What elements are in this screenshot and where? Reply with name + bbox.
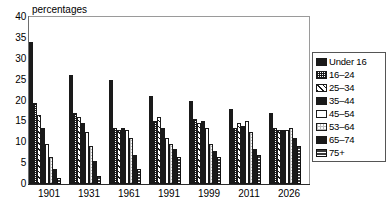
legend-item-label: 53–64 xyxy=(329,122,354,132)
legend-swatch-icon xyxy=(316,71,327,79)
chart-axis-title: percentages xyxy=(32,4,87,15)
x-axis-line xyxy=(28,184,310,185)
legend-item[interactable]: 53–64 xyxy=(316,120,383,133)
legend-item[interactable]: 45–54 xyxy=(316,107,383,120)
y-tick-label: 25 xyxy=(15,75,26,85)
y-tick-label: 0 xyxy=(21,179,26,189)
bar xyxy=(217,157,221,184)
x-axis: 1901193119611991199920112026 xyxy=(29,188,309,206)
legend-item[interactable]: 16–24 xyxy=(316,68,383,81)
legend-item[interactable]: 25–34 xyxy=(316,81,383,94)
y-tick-label: 5 xyxy=(21,158,26,168)
bar-group xyxy=(109,17,141,184)
bar xyxy=(97,176,101,184)
legend-swatch-icon xyxy=(316,110,327,118)
legend-item-label: Under 16 xyxy=(329,57,366,67)
legend-swatch-icon xyxy=(316,84,327,92)
x-tick-label: 1999 xyxy=(189,188,229,199)
bar-group xyxy=(69,17,101,184)
bar-group xyxy=(29,17,61,184)
bar-group xyxy=(229,17,261,184)
legend-item-label: 16–24 xyxy=(329,70,354,80)
legend-item[interactable]: 35–44 xyxy=(316,94,383,107)
y-tick-label: 10 xyxy=(15,137,26,147)
y-tick-label: 35 xyxy=(15,33,26,43)
legend-swatch-icon xyxy=(316,97,327,105)
bar xyxy=(137,169,141,184)
legend-item-label: 35–44 xyxy=(329,96,354,106)
plot-frame-right xyxy=(309,16,310,185)
bar xyxy=(297,146,301,184)
legend-item[interactable]: 65–74 xyxy=(316,133,383,146)
legend-swatch-icon xyxy=(316,136,327,144)
bar-chart: percentages 4035302520151050 19011931196… xyxy=(0,0,390,219)
legend-item[interactable]: Under 16 xyxy=(316,55,383,68)
x-tick-label: 1961 xyxy=(109,188,149,199)
legend-item-label: 65–74 xyxy=(329,135,354,145)
y-tick-label: 40 xyxy=(15,12,26,22)
x-tick-label: 1931 xyxy=(69,188,109,199)
bar-group xyxy=(189,17,221,184)
legend-item[interactable]: 75+ xyxy=(316,146,383,159)
legend-item-label: 45–54 xyxy=(329,109,354,119)
x-tick-label: 2011 xyxy=(229,188,269,199)
y-tick-label: 20 xyxy=(15,96,26,106)
legend-item-label: 25–34 xyxy=(329,83,354,93)
bar xyxy=(177,157,181,184)
x-tick-label: 2026 xyxy=(269,188,309,199)
y-tick-label: 30 xyxy=(15,54,26,64)
bar-group xyxy=(269,17,301,184)
bar xyxy=(257,155,261,184)
legend-swatch-icon xyxy=(316,58,327,66)
legend-swatch-icon xyxy=(316,149,327,157)
plot-area xyxy=(29,17,309,184)
y-tick-label: 15 xyxy=(15,116,26,126)
bar xyxy=(57,178,61,184)
legend-swatch-icon xyxy=(316,123,327,131)
bar-group xyxy=(149,17,181,184)
x-tick-label: 1901 xyxy=(29,188,69,199)
chart-legend: Under 1616–2425–3435–4445–5453–6465–7475… xyxy=(312,52,386,162)
y-axis: 4035302520151050 xyxy=(0,10,26,192)
legend-item-label: 75+ xyxy=(329,148,345,158)
x-tick-label: 1991 xyxy=(149,188,189,199)
